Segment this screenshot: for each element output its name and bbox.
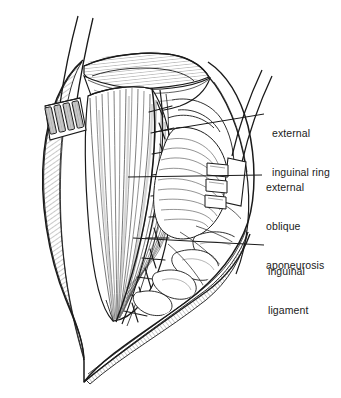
label-external-oblique-aponeurosis-line2: oblique <box>266 220 324 233</box>
label-external-oblique-aponeurosis-line1: external <box>266 181 324 194</box>
anatomical-figure: external inguinal ring external oblique … <box>0 0 341 398</box>
label-inguinal-ligament-line1: inguinal <box>268 265 309 278</box>
label-external-inguinal-ring-line1: external <box>272 127 330 140</box>
label-inguinal-ligament: inguinal ligament <box>268 239 309 343</box>
label-inguinal-ligament-line2: ligament <box>268 304 309 317</box>
retractor-right <box>205 70 272 209</box>
